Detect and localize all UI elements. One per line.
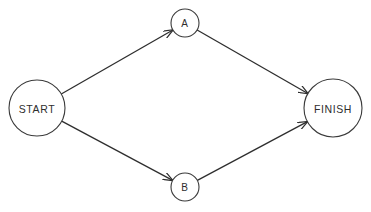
node-finish-label: FINISH (314, 103, 352, 115)
node-b: B (171, 173, 199, 201)
edge-start-to-a-arrow (61, 30, 173, 94)
node-start-label: START (19, 103, 55, 115)
node-b-label: B (181, 182, 188, 193)
nodes-group: STARTABFINISH (9, 9, 362, 201)
node-finish: FINISH (304, 79, 362, 137)
flow-diagram: STARTABFINISH (0, 0, 371, 212)
edge-a-to-finish-arrow (197, 30, 308, 94)
node-a: A (171, 9, 199, 37)
edge-b-to-finish-arrow (197, 122, 307, 181)
node-start: START (9, 80, 65, 136)
edges-group (61, 30, 308, 180)
node-a-label: A (181, 18, 188, 29)
edge-start-to-b-arrow (62, 121, 173, 180)
